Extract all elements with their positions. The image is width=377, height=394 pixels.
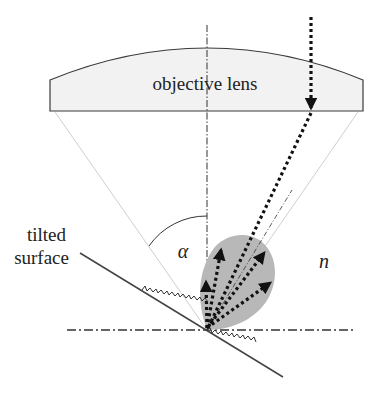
cone-edge-left [55,112,207,330]
emission-lobe [200,235,275,330]
refractive-index-label: n [319,250,329,272]
angle-label-alpha: α [178,240,189,262]
diagram-canvas: objective lens α tilted surface n [0,0,377,394]
lens-label: objective lens [153,73,258,94]
surface-roughness-upper [142,286,208,302]
surface-label-line2: surface [14,247,69,268]
surface-label-line1: tilted [27,224,67,245]
